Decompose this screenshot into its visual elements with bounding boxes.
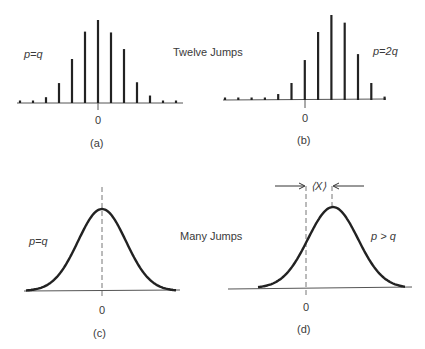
panel-d-axis	[228, 287, 412, 289]
title-many-jumps: Many Jumps	[180, 230, 243, 242]
panel-c-zero-label: 0	[99, 304, 105, 316]
panel-a-bars	[20, 20, 176, 103]
panel-b-zero-label: 0	[302, 112, 308, 124]
panel-a: p=q 0 (a)	[17, 20, 183, 149]
panel-c: p=q 0 (c)	[24, 187, 180, 339]
panel-a-annotation: p=q	[23, 48, 44, 60]
panel-d-mean-label: ⟨X⟩	[311, 180, 327, 192]
panel-d: ⟨X⟩ p > q 0 (d)	[228, 180, 412, 335]
panel-b-caption: (b)	[297, 134, 310, 146]
panel-a-zero-label: 0	[95, 114, 101, 126]
title-twelve-jumps: Twelve Jumps	[173, 46, 243, 58]
panel-d-zero-label: 0	[303, 301, 309, 313]
panel-c-caption: (c)	[93, 327, 106, 339]
panel-a-caption: (a)	[90, 137, 103, 149]
panel-b-bars	[225, 15, 385, 100]
panel-d-caption: (d)	[297, 323, 310, 335]
panel-d-gaussian-curve	[258, 207, 405, 287]
random-walk-diagram: p=q 0 (a) Twelve Jumps p=2q 0 (b) p=q 0 …	[0, 0, 425, 349]
panel-c-annotation: p=q	[28, 235, 49, 247]
panel-c-axis	[24, 290, 180, 291]
panel-b-annotation: p=2q	[372, 45, 399, 57]
panel-b: p=2q 0 (b)	[223, 15, 399, 146]
panel-d-annotation: p > q	[370, 230, 397, 242]
panel-c-gaussian-curve	[26, 209, 176, 291]
